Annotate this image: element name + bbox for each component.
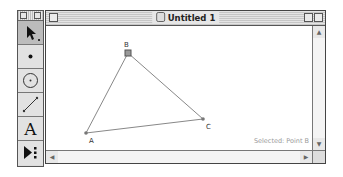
arrow-icon <box>18 21 43 44</box>
arrow-tool[interactable] <box>18 21 43 45</box>
text-tool[interactable]: A <box>18 117 43 141</box>
palette-zoom-box[interactable] <box>34 12 41 19</box>
compass-tool[interactable] <box>18 69 43 93</box>
text-icon: A <box>18 117 43 140</box>
horizontal-scrollbar[interactable]: ◀ ▶ <box>46 150 312 163</box>
point-c[interactable] <box>201 117 205 121</box>
window-title: Untitled 1 <box>152 12 220 24</box>
sketch-drawing <box>46 26 312 150</box>
point-b-selected[interactable] <box>125 50 131 56</box>
resize-grow-box[interactable] <box>312 150 325 163</box>
status-text: Selected: Point B <box>254 137 309 145</box>
zoom-box[interactable] <box>304 13 313 22</box>
custom-tool[interactable] <box>18 141 43 165</box>
segment-ab[interactable] <box>86 53 128 133</box>
label-b[interactable]: B <box>124 41 129 49</box>
document-icon <box>156 12 165 22</box>
segment-ca[interactable] <box>86 119 203 133</box>
circle-icon <box>18 69 43 92</box>
close-box[interactable] <box>49 13 58 22</box>
window-title-bar[interactable]: Untitled 1 <box>46 11 325 26</box>
sketch-canvas[interactable]: B A C <box>46 26 312 150</box>
custom-tool-icon <box>18 141 43 164</box>
scroll-down-arrow[interactable]: ▼ <box>313 138 325 150</box>
scroll-right-arrow[interactable]: ▶ <box>300 151 312 163</box>
scroll-left-arrow[interactable]: ◀ <box>46 151 58 163</box>
collapse-box[interactable] <box>314 13 323 22</box>
point-a[interactable] <box>84 131 88 135</box>
label-a[interactable]: A <box>89 137 94 145</box>
palette-close-box[interactable] <box>20 12 27 19</box>
document-window: Untitled 1 B A C Selected: Point B ▲ ▼ ◀… <box>45 10 326 164</box>
point-icon <box>18 45 43 68</box>
toolbox-palette: A <box>17 10 44 167</box>
point-tool[interactable] <box>18 45 43 69</box>
segment-bc[interactable] <box>128 53 203 119</box>
vertical-scrollbar[interactable]: ▲ ▼ <box>312 26 325 150</box>
svg-text:A: A <box>23 119 37 139</box>
segment-icon <box>18 93 43 116</box>
scroll-up-arrow[interactable]: ▲ <box>313 26 325 38</box>
straightedge-tool[interactable] <box>18 93 43 117</box>
palette-title-bar[interactable] <box>18 11 43 21</box>
label-c[interactable]: C <box>206 123 211 131</box>
